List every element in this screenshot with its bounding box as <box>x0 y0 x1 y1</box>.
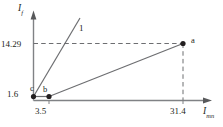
series-label-1: 1 <box>79 24 84 33</box>
y-axis-arrowhead <box>31 11 37 20</box>
point-label-c: c <box>30 84 34 93</box>
series-line-1 <box>34 18 81 97</box>
x-axis-arrowhead <box>203 98 212 104</box>
data-point-c <box>31 94 36 99</box>
y-axis-title: If <box>18 4 23 15</box>
x-axis-title: Imn <box>203 107 214 118</box>
data-point-b <box>46 94 51 99</box>
y-axis-title-subscript: f <box>21 9 23 16</box>
point-label-b: b <box>43 85 47 94</box>
chart-figure: If Imn 14.29 1.6 3.5 31.4 a b c 1 <box>0 0 223 127</box>
x-tick-label-3-5: 3.5 <box>35 107 46 116</box>
x-axis-title-subscript: mn <box>206 112 214 119</box>
data-point-a <box>180 41 185 46</box>
chart-plot-area <box>0 0 223 127</box>
series-line-b-a <box>49 44 183 97</box>
x-tick-label-31-4: 31.4 <box>170 107 186 116</box>
point-label-a: a <box>191 36 195 45</box>
y-tick-label-14-29: 14.29 <box>1 40 21 49</box>
y-tick-label-1-6: 1.6 <box>7 90 18 99</box>
